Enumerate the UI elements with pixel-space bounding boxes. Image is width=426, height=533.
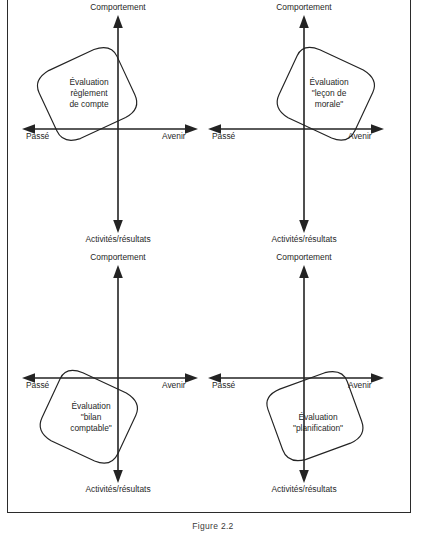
blob-label-line: "bilan — [70, 412, 112, 423]
quadrant-diagram-bottom-right: Comportement Activités/résultats Passé A… — [194, 251, 396, 504]
arrow-right-icon — [371, 373, 384, 383]
quadrant-diagram-bottom-left: Comportement Activités/résultats Passé A… — [8, 251, 210, 504]
axis-label-up: Comportement — [90, 253, 145, 262]
axis-label-right: Avenir — [348, 132, 372, 141]
blob-label-line: Évaluation — [309, 77, 348, 88]
axes-and-blob-bottom-left — [8, 251, 210, 504]
axis-label-down: Activités/résultats — [271, 235, 336, 244]
axis-label-left: Passé — [26, 132, 49, 141]
blob-label-line: de compte — [69, 98, 108, 109]
figure-caption: Figure 2.2 — [0, 521, 426, 531]
blob-label-top-left: Évaluation règlement de compte — [69, 77, 108, 109]
quadrant-diagram-top-right: Comportement Activités/résultats Passé A… — [194, 1, 396, 254]
blob-label-line: comptable" — [70, 422, 112, 433]
blob-label-line: Évaluation — [70, 401, 112, 412]
arrow-up-icon — [113, 15, 123, 28]
blob-label-line: "leçon de — [309, 88, 348, 99]
arrow-up-icon — [113, 265, 123, 278]
arrow-down-icon — [299, 220, 309, 233]
axis-label-left: Passé — [26, 381, 49, 390]
arrow-down-icon — [113, 220, 123, 233]
axis-label-up: Comportement — [90, 3, 145, 12]
axis-label-up: Comportement — [276, 253, 331, 262]
axis-label-right: Avenir — [348, 381, 372, 390]
blob-label-line: règlement — [69, 88, 108, 99]
blob-label-line: morale" — [309, 98, 348, 109]
blob-label-line: Évaluation — [293, 412, 343, 423]
axis-label-up: Comportement — [276, 3, 331, 12]
blob-label-bottom-right: Évaluation "planification" — [293, 412, 343, 434]
blob-label-line: Évaluation — [69, 77, 108, 88]
blob-label-line: "planification" — [293, 423, 343, 434]
arrow-down-icon — [113, 470, 123, 483]
axis-label-down: Activités/résultats — [271, 485, 336, 494]
quadrant-diagram-top-left: Comportement Activités/résultats Passé A… — [8, 1, 210, 254]
axes-and-blob-bottom-right — [194, 251, 396, 504]
axes-and-blob-top-right — [194, 1, 396, 254]
arrow-up-icon — [299, 265, 309, 278]
blob-label-top-right: Évaluation "leçon de morale" — [309, 77, 348, 109]
axis-label-right: Avenir — [162, 381, 186, 390]
figure-border-frame: Comportement Activités/résultats Passé A… — [7, 0, 411, 513]
blob-label-bottom-left: Évaluation "bilan comptable" — [70, 401, 112, 433]
axes-and-blob-top-left — [8, 1, 210, 254]
arrow-up-icon — [299, 15, 309, 28]
arrow-down-icon — [299, 470, 309, 483]
axis-label-down: Activités/résultats — [85, 485, 150, 494]
axis-label-left: Passé — [212, 381, 235, 390]
axis-label-down: Activités/résultats — [85, 235, 150, 244]
axis-label-left: Passé — [212, 132, 235, 141]
axis-label-right: Avenir — [162, 132, 186, 141]
arrow-right-icon — [371, 124, 384, 134]
